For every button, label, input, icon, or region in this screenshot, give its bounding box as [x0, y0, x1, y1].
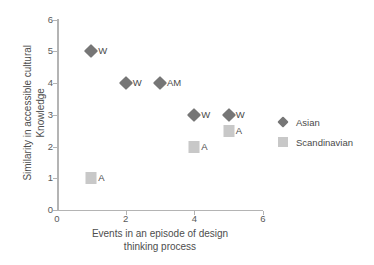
square-icon [277, 135, 291, 149]
data-point-diamond [84, 44, 98, 58]
x-axis-title-line1: Events in an episode of design [92, 228, 228, 239]
y-tick-mark [53, 83, 57, 84]
data-point-label: W [201, 109, 210, 120]
legend-item-scandinavian[interactable]: Scandinavian [277, 132, 353, 152]
y-axis-title-line2: Knowledge [35, 88, 46, 137]
x-axis-title-line2: thinking process [124, 241, 196, 252]
y-tick-mark [53, 210, 57, 211]
data-point-diamond [153, 76, 167, 90]
x-tick-label: 0 [50, 213, 64, 224]
legend-label: Asian [296, 117, 320, 128]
y-tick-mark [53, 178, 57, 179]
y-tick-mark [53, 20, 57, 21]
data-point-label: W [236, 109, 245, 120]
data-point-diamond [119, 76, 133, 90]
y-tick-mark [53, 51, 57, 52]
y-axis-title: Similarity in accessible cultural Knowle… [22, 23, 48, 203]
chart-legend: AsianScandinavian [277, 112, 353, 152]
scatter-chart: 0123456 0246 WWAMWWAAA Similarity in acc… [0, 0, 374, 265]
data-point-label: W [98, 45, 107, 56]
data-point-label: A [201, 141, 207, 152]
legend-item-asian[interactable]: Asian [277, 112, 353, 132]
data-point-diamond [222, 108, 236, 122]
diamond-icon [277, 115, 291, 129]
x-tick-mark [126, 211, 127, 215]
data-point-square [86, 172, 97, 184]
data-point-square [189, 141, 200, 153]
x-axis-title: Events in an episode of design thinking … [57, 228, 263, 254]
x-tick-mark [194, 211, 195, 215]
data-point-label: W [133, 77, 142, 88]
y-axis-title-line1: Similarity in accessible cultural [22, 45, 33, 181]
data-point-diamond [187, 108, 201, 122]
x-tick-mark [263, 211, 264, 215]
y-tick-mark [53, 147, 57, 148]
data-point-label: A [236, 125, 242, 136]
data-point-square [223, 125, 234, 137]
legend-label: Scandinavian [296, 137, 353, 148]
data-point-label: A [98, 172, 104, 183]
x-axis-line [57, 210, 263, 212]
data-point-label: AM [167, 77, 181, 88]
y-axis-line [57, 19, 59, 211]
y-tick-mark [53, 115, 57, 116]
